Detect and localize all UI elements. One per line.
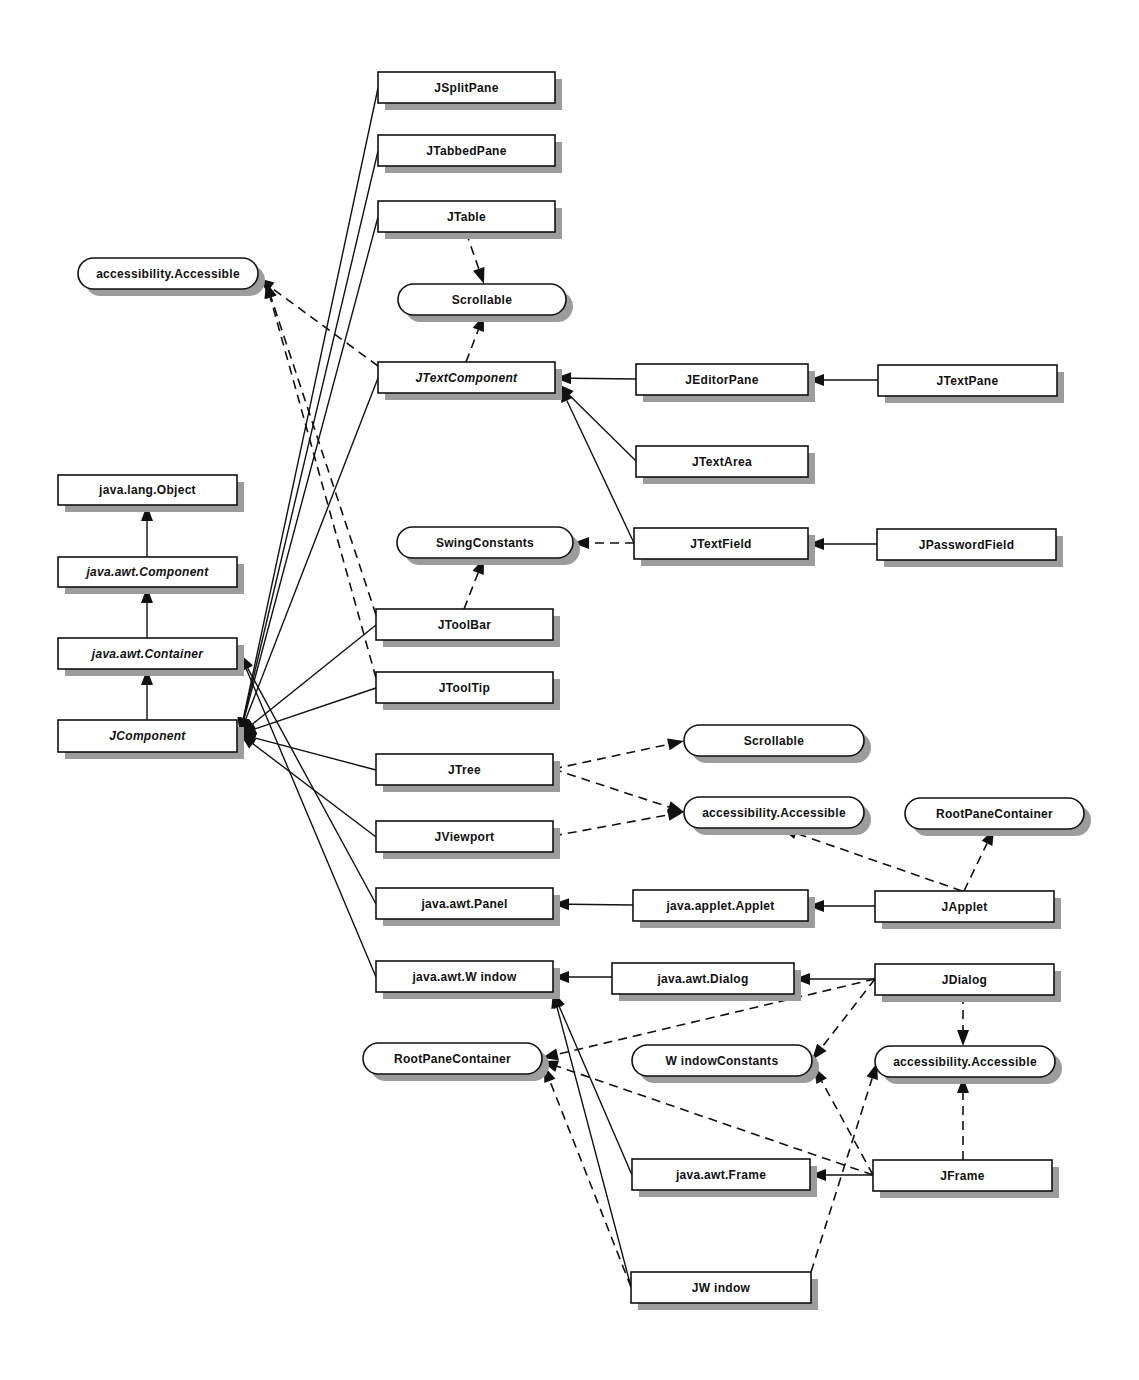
class-node-jeditorpane: JEditorPane (636, 364, 815, 402)
node-label: JViewport (435, 830, 495, 844)
extends-edge-jtable-to-jcomponent (238, 217, 378, 734)
implements-edge-jtree-to-accessible2 (553, 769, 684, 813)
dashed-connector (270, 297, 376, 678)
implements-edge-jdialog-to-accessible3 (957, 995, 969, 1046)
node-label: W indowConstants (666, 1054, 779, 1068)
extends-edge-jcomponent-to-container (141, 669, 153, 720)
class-node-jtable: JTable (378, 201, 562, 239)
class-node-japplet: JApplet (875, 891, 1061, 929)
implements-edge-jdialog-to-windowconstants (812, 979, 875, 1060)
interface-node-rootpane1: RootPaneContainer (905, 798, 1091, 836)
interface-node-accessible3: accessibility.Accessible (875, 1046, 1062, 1084)
class-node-jtextcomponent: JTextComponent (378, 362, 562, 400)
class-node-window: java.awt.W indow (376, 961, 560, 999)
class-node-jtextarea: JTextArea (636, 446, 815, 484)
interface-node-swingconstants: SwingConstants (397, 527, 580, 565)
class-node-jwindow: JW indow (631, 1272, 818, 1310)
solid-connector (244, 217, 378, 719)
dashed-connector (553, 744, 668, 769)
node-label: JFrame (940, 1169, 985, 1183)
edges-layer (141, 88, 994, 1287)
node-label: java.lang.Object (98, 483, 196, 497)
node-label: JEditorPane (685, 373, 758, 387)
class-node-jtoolbar: JToolBar (376, 609, 560, 647)
node-label: RootPaneContainer (936, 807, 1053, 821)
node-label: java.awt.Panel (420, 897, 507, 911)
extends-edge-jpasswordfield-to-jtextfield (808, 538, 877, 550)
class-node-jtree: JTree (376, 754, 560, 792)
extends-edge-jframe-to-frame (810, 1169, 873, 1181)
node-label: Scrollable (452, 293, 512, 307)
node-label: JApplet (941, 900, 987, 914)
class-node-jtabbedpane: JTabbedPane (378, 135, 562, 173)
class-node-jframe: JFrame (873, 1160, 1059, 1198)
implements-edge-japplet-to-rootpane1 (964, 829, 994, 891)
class-node-jtooltip: JToolTip (376, 672, 560, 710)
arrowhead-icon (957, 1030, 969, 1046)
implements-edge-jframe-to-windowconstants (814, 1067, 873, 1175)
node-label: SwingConstants (436, 536, 534, 550)
class-node-object: java.lang.Object (58, 475, 244, 512)
node-label: JSplitPane (434, 81, 498, 95)
implements-edge-jviewport-to-accessible2 (553, 809, 684, 836)
solid-connector (559, 1007, 632, 1175)
class-node-jviewport: JViewport (376, 821, 560, 859)
nodes-layer: JSplitPaneJTabbedPaneJTableScrollableacc… (58, 72, 1091, 1310)
arrowhead-icon (667, 738, 684, 750)
implements-edge-jtooltip-to-accessible1 (265, 282, 376, 678)
implements-edge-jwindow-to-accessible3 (811, 1063, 878, 1272)
class-node-jpasswordfield: JPasswordField (877, 529, 1063, 567)
solid-connector (569, 904, 633, 905)
node-label: accessibility.Accessible (702, 806, 846, 820)
implements-edge-japplet-to-accessible2 (781, 828, 962, 891)
dashed-connector (271, 287, 378, 366)
node-label: java.awt.Dialog (656, 972, 748, 986)
solid-connector (571, 378, 636, 379)
dashed-connector (553, 815, 668, 836)
implements-edge-jframe-to-accessible3 (957, 1077, 969, 1160)
class-hierarchy-diagram: JSplitPaneJTabbedPaneJTableScrollableacc… (0, 0, 1139, 1380)
extends-edge-component-to-object (141, 505, 153, 557)
node-label: accessibility.Accessible (893, 1055, 1037, 1069)
solid-connector (243, 88, 378, 718)
node-label: java.awt.Component (84, 565, 209, 579)
node-label: java.awt.W indow (411, 970, 517, 984)
extends-edge-applet-to-panel (553, 898, 633, 910)
implements-edge-jtoolbar-to-swingconstants (464, 558, 484, 609)
implements-edge-jtree-to-scrollable2 (553, 738, 684, 769)
arrowhead-icon (473, 267, 484, 284)
node-label: JToolTip (439, 681, 490, 695)
class-node-jtextpane: JTextPane (878, 365, 1064, 403)
extends-edge-dialog-to-window (553, 971, 612, 983)
interface-node-scrollable2: Scrollable (684, 725, 871, 763)
dashed-connector (550, 1081, 631, 1287)
solid-connector (244, 151, 378, 718)
class-node-component: java.awt.Component (58, 557, 244, 594)
solid-connector (248, 668, 376, 904)
extends-edge-panel-to-container (240, 654, 376, 904)
class-node-applet: java.applet.Applet (633, 890, 815, 928)
class-node-container: java.awt.Container (58, 638, 244, 676)
dashed-connector (553, 769, 669, 807)
node-label: JTextField (690, 537, 751, 551)
interface-node-accessible1: accessibility.Accessible (78, 258, 265, 296)
node-label: RootPaneContainer (394, 1052, 511, 1066)
extends-edge-jtree-to-jcomponent (240, 732, 376, 770)
node-label: JTree (448, 763, 481, 777)
node-label: accessibility.Accessible (96, 267, 240, 281)
extends-edge-jdialog-to-dialog (794, 973, 875, 985)
dashed-connector (822, 1081, 873, 1175)
node-label: JW indow (692, 1281, 751, 1295)
dashed-connector (464, 573, 478, 609)
interface-node-rootpane2: RootPaneContainer (363, 1043, 549, 1081)
implements-edge-jtable-to-scrollable1 (466, 232, 484, 284)
implements-edge-jtoolbar-to-accessible1 (265, 282, 376, 615)
class-node-jcomponent: JComponent (58, 720, 244, 759)
implements-edge-jtextcomponent-to-scrollable1 (466, 315, 484, 362)
implements-edge-jtextfield-to-swingconstants (573, 537, 634, 549)
extends-edge-jeditorpane-to-jtextcomponent (555, 372, 636, 384)
dashed-connector (964, 843, 987, 891)
node-label: JToolBar (438, 618, 492, 632)
node-label: java.applet.Applet (665, 899, 774, 913)
node-label: JDialog (942, 973, 987, 987)
